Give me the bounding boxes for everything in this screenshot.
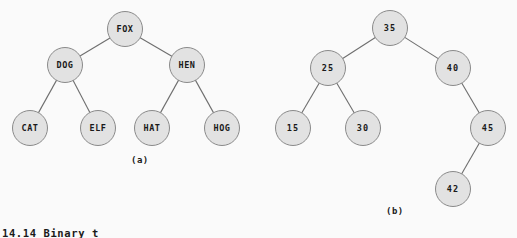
tree-edge	[160, 80, 178, 113]
tree-edge	[195, 80, 213, 113]
tree-node-cat: CAT	[12, 110, 48, 146]
tree-node-n35: 35	[372, 10, 408, 46]
tree-node-n30: 30	[345, 110, 381, 146]
tree-node-n40: 40	[435, 50, 471, 86]
tree-node-dog: DOG	[47, 47, 83, 83]
tree-node-hat: HAT	[134, 110, 170, 146]
sublabel-tree-a: (a)	[131, 155, 149, 165]
tree-edge	[342, 37, 375, 59]
tree-edge	[462, 83, 480, 114]
tree-edge	[140, 38, 173, 57]
tree-node-hog: HOG	[204, 110, 240, 146]
tree-node-n25: 25	[310, 50, 346, 86]
tree-edge	[404, 37, 438, 59]
tree-node-hen: HEN	[169, 47, 205, 83]
binary-tree-figure: FOXDOGHENCATELFHATHOG(a)35254015304542(b…	[0, 0, 517, 238]
tree-edge-layer	[0, 0, 517, 238]
tree-node-n15: 15	[275, 110, 311, 146]
tree-node-fox: FOX	[107, 11, 143, 47]
figure-caption: 14.14 Binary t	[2, 227, 99, 238]
tree-edge	[80, 38, 111, 57]
tree-node-n42: 42	[435, 171, 471, 207]
tree-edge	[461, 143, 479, 175]
tree-node-elf: ELF	[80, 110, 116, 146]
tree-edge	[337, 83, 355, 114]
tree-node-n45: 45	[470, 110, 506, 146]
tree-edge	[73, 80, 90, 113]
sublabel-tree-b: (b)	[386, 206, 404, 216]
tree-edge	[302, 83, 320, 114]
tree-edge	[38, 80, 56, 113]
